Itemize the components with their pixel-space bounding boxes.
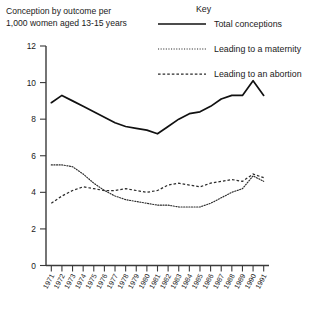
y-axis-tick-label: 0: [31, 261, 36, 271]
y-axis-tick-label: 12: [27, 41, 37, 51]
legend-title: Key: [196, 4, 212, 14]
chart-title-line-2: 1,000 women aged 13-15 years: [6, 18, 127, 28]
y-axis-tick-label: 4: [31, 187, 36, 197]
legend-label-abortion: Leading to an abortion: [214, 69, 302, 79]
y-axis-tick-label: 10: [27, 78, 37, 88]
conception-by-outcome-line-chart: Conception by outcome per 1,000 women ag…: [0, 0, 320, 311]
chart-title-line-1: Conception by outcome per: [6, 6, 111, 16]
y-axis-tick-label: 6: [31, 151, 36, 161]
legend-label-total-conceptions: Total conceptions: [214, 19, 283, 29]
legend-label-maternity: Leading to a maternity: [214, 44, 302, 54]
y-axis-tick-label: 2: [31, 224, 36, 234]
y-axis-tick-label: 8: [31, 114, 36, 124]
